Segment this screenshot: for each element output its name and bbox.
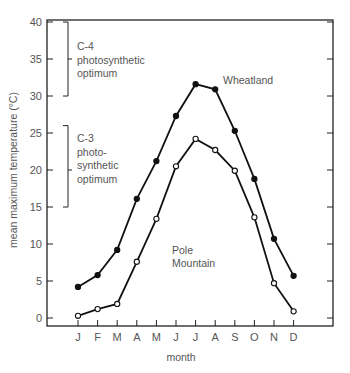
filled-marker [95,272,100,277]
x-tick-label: M [113,331,122,343]
open-marker [232,168,237,173]
open-marker [75,313,80,318]
open-marker [134,259,139,264]
x-tick-label: A [133,331,141,343]
optimum-brackets: C-4photosyntheticoptimumC-3photo-synthet… [63,22,145,207]
open-marker [213,147,218,152]
x-tick-label: F [94,331,101,343]
y-axis-title: mean maximum temperature (°C) [7,92,19,248]
optimum-label: optimum [77,67,118,79]
optimum-bracket [63,22,68,96]
y-tick-label: 35 [30,53,42,65]
x-tick-label: J [173,331,179,343]
x-tick-label: A [212,331,220,343]
y-tick-label: 25 [30,127,42,139]
y-tick-label: 40 [30,16,42,28]
x-tick-label: M [152,331,161,343]
open-marker [291,309,296,314]
y-axis-ticks: 0510152025303540 [30,16,333,324]
filled-marker [232,128,237,133]
filled-marker [75,284,80,289]
x-tick-label: J [75,331,81,343]
open-marker [193,136,198,141]
series-label: Mountain [172,257,215,269]
x-tick-label: J [193,331,199,343]
optimum-label: synthetic [77,159,118,171]
optimum-label: photo- [77,146,107,158]
filled-marker [154,159,159,164]
open-marker [271,281,276,286]
y-tick-label: 20 [30,164,42,176]
filled-marker [291,273,296,278]
y-tick-label: 5 [36,275,42,287]
x-axis-ticks: JFMAMJJASOND [75,320,297,343]
x-tick-label: D [290,331,298,343]
open-marker [95,307,100,312]
filled-marker [173,113,178,118]
y-tick-label: 10 [30,238,42,250]
filled-marker [134,196,139,201]
filled-marker [115,247,120,252]
y-tick-label: 15 [30,201,42,213]
x-tick-label: N [270,331,278,343]
series-label: Pole [172,244,193,256]
filled-marker [193,82,198,87]
y-tick-label: 0 [36,312,42,324]
x-axis-title: month [166,351,195,363]
filled-marker [213,87,218,92]
series-label: Wheatland [223,74,273,86]
optimum-label: optimum [77,173,118,185]
temperature-chart: 0510152025303540 JFMAMJJASOND C-4photosy… [0,0,350,373]
x-tick-label: S [231,331,238,343]
x-tick-label: O [250,331,259,343]
open-marker [252,215,257,220]
optimum-bracket [63,126,68,207]
data-series [75,82,296,319]
optimum-label: C-4 [77,40,94,52]
open-marker [115,301,120,306]
open-marker [154,216,159,221]
optimum-label: photosynthetic [77,54,145,66]
optimum-label: C-3 [77,132,94,144]
open-marker [173,164,178,169]
filled-marker [271,236,276,241]
filled-marker [252,176,257,181]
y-tick-label: 30 [30,90,42,102]
